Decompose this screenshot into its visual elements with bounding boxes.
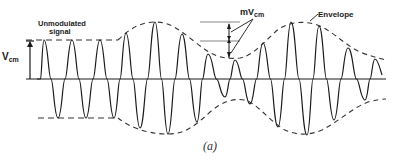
mvcm-arrow-up-icon — [227, 23, 231, 29]
mvcm-leader-2 — [231, 19, 253, 53]
unmodulated-label-line2: signal — [49, 27, 71, 36]
vcm-label: Vcm — [2, 51, 19, 63]
envelope-leader — [310, 14, 318, 21]
mvcm-leader-1 — [231, 19, 253, 32]
figure-caption: (a) — [203, 139, 217, 153]
mvcm-arrow-down-2-icon — [227, 52, 231, 58]
waveform-diagram: Vcm Unmodulated signal mVcm Envelope (a) — [0, 0, 394, 165]
vcm-arrow-head-icon — [27, 41, 33, 47]
am-waveform-figure: Vcm Unmodulated signal mVcm Envelope (a) — [0, 0, 394, 165]
mvcm-label: mVcm — [240, 7, 264, 18]
envelope-label: Envelope — [318, 10, 354, 19]
lower-envelope — [118, 99, 386, 134]
